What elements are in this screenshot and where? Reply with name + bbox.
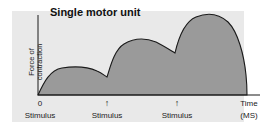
- x-axis-unit-text: (MS): [236, 111, 262, 120]
- up-arrow-icon: ↑: [157, 99, 197, 108]
- x-label-stimulus-1: ↑ Stimulus: [87, 99, 127, 120]
- up-arrow-icon: ↑: [87, 99, 127, 108]
- x-label-stimulus-text: Stimulus: [157, 111, 197, 120]
- x-label-stimulus-2: ↑ Stimulus: [157, 99, 197, 120]
- x-label-stimulus-0: 0 Stimulus: [20, 99, 60, 120]
- force-area: [38, 14, 247, 95]
- x-axis-time-label: Time (MS): [236, 99, 262, 120]
- x-label-zero: 0: [20, 99, 60, 108]
- x-axis-time-text: Time: [236, 99, 262, 108]
- x-label-stimulus-text: Stimulus: [20, 111, 60, 120]
- x-label-stimulus-text: Stimulus: [87, 111, 127, 120]
